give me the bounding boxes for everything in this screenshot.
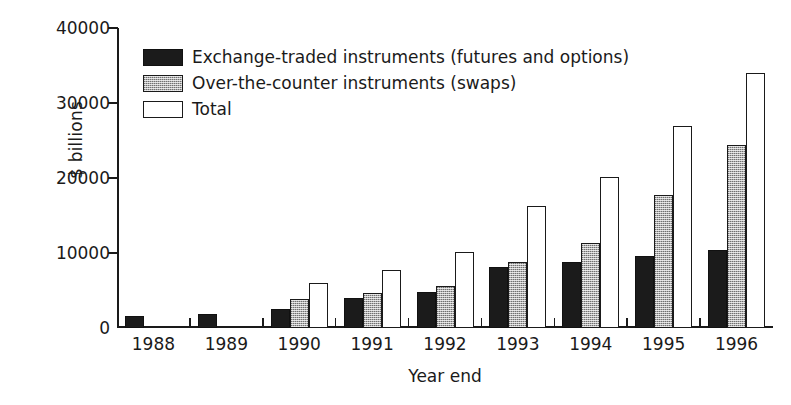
- x-axis-tick-label: 1989: [205, 334, 248, 354]
- y-axis-tick-labels: 010000200003000040000: [18, 0, 110, 405]
- y-axis-tick-mark: [108, 177, 118, 179]
- y-axis-tick-label: 40000: [18, 20, 110, 37]
- x-axis-tick-label: 1993: [496, 334, 539, 354]
- bar: [436, 286, 455, 328]
- y-axis-tick-label: 0: [18, 320, 110, 337]
- bar: [654, 195, 673, 329]
- bar: [562, 262, 581, 328]
- y-axis-tick-mark: [108, 27, 118, 29]
- bar: [455, 252, 474, 328]
- x-axis-tick-label: 1995: [642, 334, 685, 354]
- x-axis-tick-mark: [626, 318, 628, 328]
- x-axis-tick-label: 1996: [715, 334, 758, 354]
- legend-item-label: Over-the-counter instruments (swaps): [192, 75, 516, 92]
- x-axis-tick-label: 1994: [569, 334, 612, 354]
- bar: [290, 299, 309, 328]
- x-axis-tick-label: 1988: [132, 334, 175, 354]
- x-axis-tick-mark: [335, 318, 337, 328]
- bar: [125, 316, 144, 328]
- bar: [581, 243, 600, 329]
- y-axis-tick-mark: [108, 102, 118, 104]
- legend-swatch-icon: [143, 101, 183, 118]
- bar: [727, 145, 746, 328]
- x-axis-tick-mark: [189, 318, 191, 328]
- x-axis-tick-mark: [554, 318, 556, 328]
- bar: [309, 283, 328, 328]
- x-axis-label: Year end: [117, 366, 773, 386]
- bar: [344, 298, 363, 328]
- y-axis-tick-label: 20000: [18, 170, 110, 187]
- bar: [600, 177, 619, 328]
- bar: [635, 256, 654, 328]
- bar: [673, 126, 692, 328]
- bar: [489, 267, 508, 328]
- x-axis-tick-mark: [481, 318, 483, 328]
- legend-item: Total: [143, 99, 629, 119]
- x-axis-tick-label: 1992: [423, 334, 466, 354]
- y-axis-tick-label: 30000: [18, 95, 110, 112]
- x-axis-tick-labels: 198819891990199119921993199419951996: [117, 334, 773, 360]
- legend-swatch-icon: [143, 75, 183, 92]
- legend-swatch-icon: [143, 49, 183, 66]
- legend-item: Over-the-counter instruments (swaps): [143, 73, 629, 93]
- bar: [271, 309, 290, 328]
- x-axis-tick-label: 1991: [350, 334, 393, 354]
- chart-legend: Exchange-traded instruments (futures and…: [143, 47, 629, 119]
- bar: [417, 292, 436, 328]
- x-axis-tick-mark: [262, 318, 264, 328]
- x-axis-tick-mark: [408, 318, 410, 328]
- y-axis-tick-mark: [108, 252, 118, 254]
- x-axis-tick-label: 1990: [278, 334, 321, 354]
- bar: [198, 314, 217, 328]
- bar: [363, 293, 382, 328]
- bar: [527, 206, 546, 328]
- legend-item: Exchange-traded instruments (futures and…: [143, 47, 629, 67]
- bar: [382, 270, 401, 329]
- bar: [746, 73, 765, 328]
- bar: [508, 262, 527, 328]
- bar-chart-figure: $ billions 010000200003000040000 1988198…: [0, 0, 791, 405]
- bar: [708, 250, 727, 328]
- legend-item-label: Total: [192, 101, 232, 118]
- y-axis-tick-label: 10000: [18, 245, 110, 262]
- x-axis-tick-mark: [699, 318, 701, 328]
- legend-item-label: Exchange-traded instruments (futures and…: [192, 49, 629, 66]
